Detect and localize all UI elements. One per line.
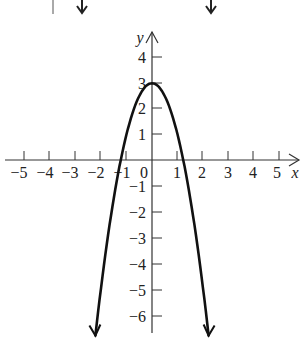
x-tick-label: 2 [198, 164, 206, 181]
y-axis-label: y [134, 29, 144, 47]
x-tick-label: 5 [273, 164, 281, 181]
x-axis-label: x [290, 164, 298, 181]
x-tick-label: −4 [36, 164, 53, 181]
y-tick-label: −4 [129, 256, 146, 273]
y-axis: 4 3 2 1 −1 −2 −3 −4 −5 −6 y [129, 29, 162, 333]
parabola-graph: −5 −4 −3 −2 −1 1 2 3 4 5 0 x [0, 0, 303, 338]
x-tick-label: −3 [61, 164, 78, 181]
x-tick-label: −2 [87, 164, 104, 181]
x-tick-label: 4 [249, 164, 257, 181]
x-tick-label: 1 [173, 164, 181, 181]
x-tick-label: 3 [224, 164, 232, 181]
y-tick-label: −3 [129, 230, 146, 247]
down-arrow-icon [77, 0, 87, 13]
y-tick-label: 1 [138, 126, 146, 143]
previous-figure-fragment [53, 0, 216, 14]
y-tick-label: −2 [129, 204, 146, 221]
y-tick-label: −1 [129, 178, 146, 195]
x-tick-label: −5 [10, 164, 27, 181]
y-tick-label: −5 [129, 282, 146, 299]
y-tick-label: 2 [138, 100, 146, 117]
down-arrow-icon [206, 0, 216, 13]
y-tick-label: 4 [138, 49, 146, 66]
y-tick-label: −6 [129, 308, 146, 325]
y-ticks [152, 57, 162, 316]
